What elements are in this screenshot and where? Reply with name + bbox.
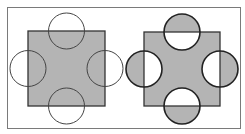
- left-square: [28, 31, 105, 106]
- diagram-canvas: [0, 0, 245, 134]
